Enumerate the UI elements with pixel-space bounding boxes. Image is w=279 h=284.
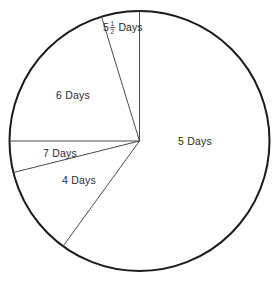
slice-label-4-days: 4 Days [62, 174, 96, 186]
slice-label-5half-unit: Days [119, 21, 143, 33]
slice-label-5half-denominator: 2 [111, 28, 115, 35]
slice-label-7-days: 7 Days [43, 147, 77, 159]
pie-chart-figure: 5 Days 5 1 2 Days 6 Days 7 Days 4 Days [0, 0, 279, 284]
slice-label-5half-numerator: 1 [111, 20, 115, 27]
pie-chart-canvas: 5 Days 5 1 2 Days 6 Days 7 Days 4 Days [0, 0, 279, 284]
slice-label-6-days: 6 Days [56, 89, 90, 101]
slice-label-5half-whole: 5 [103, 21, 109, 33]
slice-label-5-days: 5 Days [178, 135, 212, 147]
